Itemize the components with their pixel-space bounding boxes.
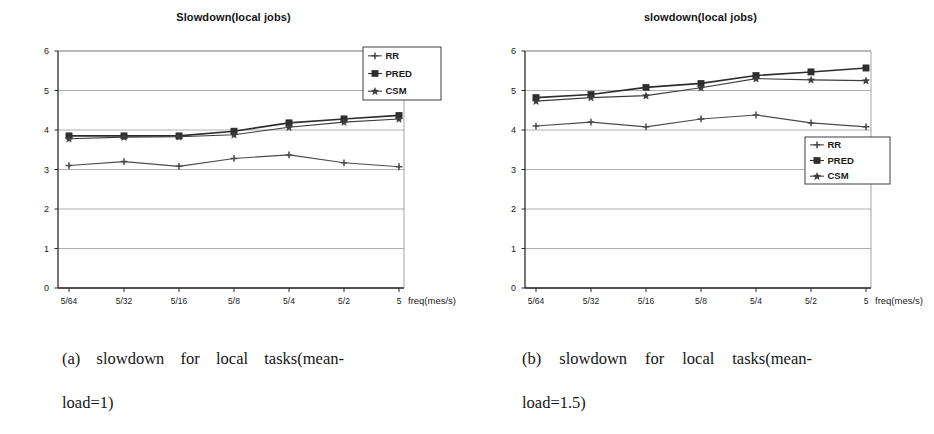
x-tick-5-2: 5/2 bbox=[338, 296, 350, 306]
caption-a: (a) slowdown for local tasks(mean- load=… bbox=[62, 348, 344, 413]
caption-b-line2: load=1.5) bbox=[522, 392, 812, 414]
x-tick-5: 5 bbox=[864, 296, 869, 306]
y-tick-6: 6 bbox=[511, 46, 516, 56]
data-point-csm-2 bbox=[642, 92, 649, 99]
data-point-csm-5 bbox=[807, 76, 814, 83]
data-point-csm-6 bbox=[862, 77, 869, 84]
y-tick-2: 2 bbox=[511, 204, 516, 214]
y-tick-4: 4 bbox=[511, 125, 516, 135]
data-point-rr-2 bbox=[643, 123, 650, 130]
series-rr bbox=[66, 151, 403, 170]
figure-panel-a: Slowdown(local jobs) 01234565/645/325/16… bbox=[0, 0, 467, 434]
data-point-rr-0 bbox=[66, 162, 73, 169]
data-point-rr-1 bbox=[588, 119, 595, 126]
y-tick-0: 0 bbox=[511, 283, 516, 293]
data-point-rr-3 bbox=[698, 116, 705, 123]
y-tick-1: 1 bbox=[44, 244, 49, 254]
data-point-rr-4 bbox=[753, 112, 760, 119]
data-point-rr-6 bbox=[863, 123, 870, 130]
x-tick-5-8: 5/8 bbox=[228, 296, 240, 306]
x-tick-5-4: 5/4 bbox=[283, 296, 295, 306]
data-point-rr-0 bbox=[533, 123, 540, 130]
legend-label-rr: RR bbox=[828, 139, 842, 150]
data-point-rr-4 bbox=[286, 151, 293, 158]
legend-label-csm: CSM bbox=[828, 170, 849, 181]
legend-marker-pred bbox=[814, 157, 820, 163]
caption-b-line1: (b) slowdown for local tasks(mean- bbox=[522, 348, 812, 392]
y-tick-3: 3 bbox=[511, 165, 516, 175]
legend-marker-pred bbox=[372, 70, 378, 76]
x-tick-5-64: 5/64 bbox=[61, 296, 78, 306]
series-csm bbox=[532, 75, 869, 105]
x-tick-5-2: 5/2 bbox=[805, 296, 817, 306]
figure-row: Slowdown(local jobs) 01234565/645/325/16… bbox=[0, 0, 934, 434]
data-point-rr-5 bbox=[808, 119, 815, 126]
legend-label-rr: RR bbox=[386, 50, 400, 61]
chart-legend-a: RRPREDCSM bbox=[363, 47, 441, 100]
series-rr bbox=[533, 112, 870, 131]
x-tick-5: 5 bbox=[397, 296, 402, 306]
chart-area-b: slowdown(local jobs) 01234565/645/325/16… bbox=[467, 0, 934, 330]
y-tick-3: 3 bbox=[44, 165, 49, 175]
line-chart-a: 01234565/645/325/165/85/45/25freq(mes/s)… bbox=[0, 0, 467, 330]
x-tick-5-8: 5/8 bbox=[695, 296, 707, 306]
caption-a-line1: (a) slowdown for local tasks(mean- bbox=[62, 348, 344, 392]
y-tick-1: 1 bbox=[511, 244, 516, 254]
legend-label-csm: CSM bbox=[386, 85, 407, 96]
data-point-pred-6 bbox=[863, 65, 869, 71]
legend-label-pred: PRED bbox=[386, 68, 413, 79]
y-tick-2: 2 bbox=[44, 204, 49, 214]
y-tick-5: 5 bbox=[44, 86, 49, 96]
data-point-rr-2 bbox=[176, 163, 183, 170]
y-tick-5: 5 bbox=[511, 86, 516, 96]
x-tick-5-16: 5/16 bbox=[171, 296, 188, 306]
chart-area-a: Slowdown(local jobs) 01234565/645/325/16… bbox=[0, 0, 467, 330]
chart-gridlines bbox=[55, 51, 405, 288]
y-tick-4: 4 bbox=[44, 125, 49, 135]
x-tick-5-4: 5/4 bbox=[750, 296, 762, 306]
data-point-rr-3 bbox=[231, 155, 238, 162]
data-point-pred-2 bbox=[643, 84, 649, 90]
caption-a-line2: load=1) bbox=[62, 392, 344, 414]
x-tick-5-32: 5/32 bbox=[116, 296, 133, 306]
x-axis-title: freq(mes/s) bbox=[408, 295, 456, 306]
legend-label-pred: PRED bbox=[828, 155, 855, 166]
x-tick-5-64: 5/64 bbox=[528, 296, 545, 306]
x-tick-5-16: 5/16 bbox=[638, 296, 655, 306]
x-axis-title: freq(mes/s) bbox=[875, 295, 923, 306]
data-point-pred-5 bbox=[808, 69, 814, 75]
data-point-rr-1 bbox=[121, 158, 128, 165]
x-tick-5-32: 5/32 bbox=[583, 296, 600, 306]
line-chart-b: 01234565/645/325/165/85/45/25freq(mes/s)… bbox=[467, 0, 934, 330]
chart-legend-b: RRPREDCSM bbox=[805, 137, 890, 184]
data-point-rr-5 bbox=[341, 159, 348, 166]
series-pred bbox=[533, 65, 869, 101]
y-tick-6: 6 bbox=[44, 46, 49, 56]
caption-b: (b) slowdown for local tasks(mean- load=… bbox=[522, 348, 812, 413]
figure-panel-b: slowdown(local jobs) 01234565/645/325/16… bbox=[467, 0, 934, 434]
y-tick-0: 0 bbox=[44, 283, 49, 293]
data-point-rr-6 bbox=[396, 163, 403, 170]
